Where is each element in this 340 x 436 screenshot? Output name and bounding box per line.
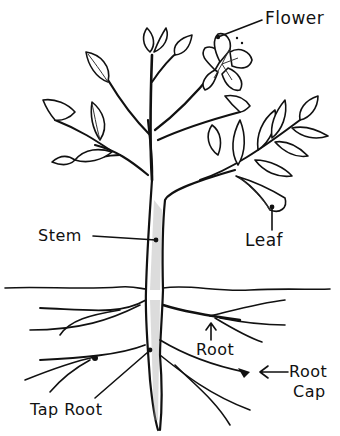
label-root: Root [196,342,234,358]
label-leaf: Leaf [245,232,283,249]
flower-shape [203,34,252,91]
label-root-cap-line2: Cap [293,384,326,400]
stem-shape [55,50,300,290]
label-stem: Stem [38,228,82,244]
label-root-cap-line1: Root [289,364,327,380]
ground-line [5,287,330,291]
label-tap-root: Tap Root [30,402,102,418]
label-flower: Flower [265,10,324,27]
leaves [43,28,328,211]
